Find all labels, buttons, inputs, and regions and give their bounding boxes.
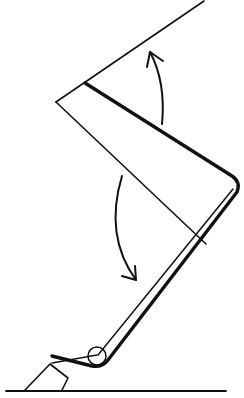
diagram-canvas (0, 0, 244, 398)
folding-panel-diagram (0, 0, 244, 398)
upper-panel-top-edge (56, 1, 204, 102)
arrow-down-shaft (116, 176, 136, 280)
lower-panel-inner-edge (98, 189, 233, 355)
base-support (25, 364, 68, 390)
upper-panel-bottom-edge (56, 102, 206, 244)
arrow-up-shaft (150, 52, 163, 124)
